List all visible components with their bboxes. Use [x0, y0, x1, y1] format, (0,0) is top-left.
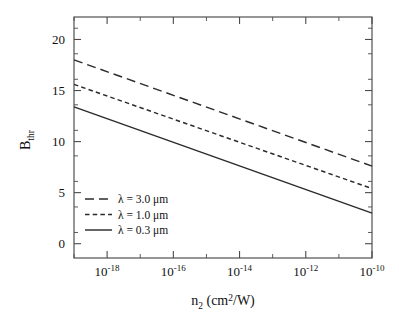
y-tick-label-5: 5: [59, 185, 66, 200]
x-axis-title-close: /W): [233, 293, 255, 309]
x-axis-tick-labels: 10-1810-1610-1410-1210-10: [95, 263, 385, 279]
x-tick-label--10: 10-10: [360, 263, 385, 279]
x-tick-label--18: 10-18: [95, 263, 120, 279]
x-axis-title: n2 (cm2/W): [191, 293, 255, 311]
series-line-1: [74, 84, 372, 188]
y-axis-title-sub: thr: [26, 129, 36, 140]
legend-label-1: λ = 1.0 μm: [118, 209, 168, 222]
x-tick-label--16: 10-16: [161, 263, 186, 279]
y-axis-title-base: B: [18, 141, 33, 150]
y-axis-title: Bthr: [18, 129, 36, 150]
svg-text:Bthr: Bthr: [18, 129, 36, 150]
data-series-group: [74, 60, 372, 213]
y-axis-tick-labels: 05101520: [52, 32, 65, 251]
legend-label-0: λ = 3.0 μm: [118, 193, 168, 206]
x-tick-label--14: 10-14: [227, 263, 252, 279]
x-tick-label--12: 10-12: [293, 263, 318, 279]
figure-canvas: 05101520 10-1810-1610-1410-1210-10 λ = 3…: [0, 0, 399, 323]
svg-text:n2 (cm2/W): n2 (cm2/W): [191, 293, 255, 311]
x-axis-title-open: (cm: [203, 293, 228, 309]
y-tick-label-20: 20: [52, 32, 65, 47]
series-line-0: [74, 60, 372, 166]
x-axis-title-base: n: [191, 293, 198, 308]
y-tick-label-15: 15: [52, 83, 65, 98]
y-tick-label-0: 0: [59, 236, 66, 251]
legend-label-2: λ = 0.3 μm: [118, 224, 168, 237]
chart-legend: λ = 3.0 μmλ = 1.0 μmλ = 0.3 μm: [85, 193, 168, 237]
plot-frame: [74, 17, 372, 258]
line-chart: 05101520 10-1810-1610-1410-1210-10 λ = 3…: [0, 0, 399, 323]
y-tick-label-10: 10: [52, 134, 65, 149]
x-axis-ticks: [74, 17, 372, 258]
